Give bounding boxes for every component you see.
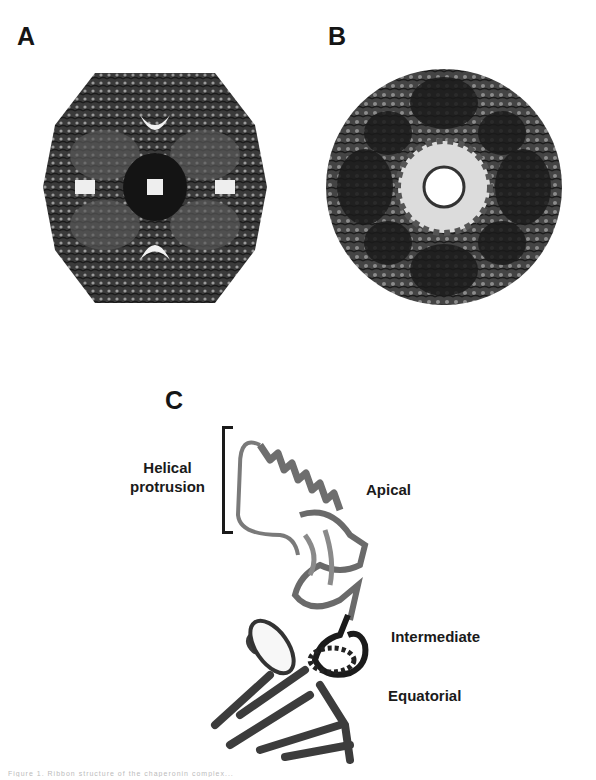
helical-protrusion-label: Helical protrusion <box>130 458 205 496</box>
panel-label-a: A <box>17 22 35 51</box>
side-view-structure-image <box>35 65 275 310</box>
figure-caption: Figure 1. Ribbon structure of the chaper… <box>8 770 588 777</box>
top-view-structure-image <box>318 65 570 310</box>
panel-label-c: C <box>165 386 183 415</box>
intermediate-domain-label: Intermediate <box>391 627 480 646</box>
subunit-ribbon-structure-image <box>200 425 400 765</box>
panel-label-b: B <box>328 22 346 51</box>
